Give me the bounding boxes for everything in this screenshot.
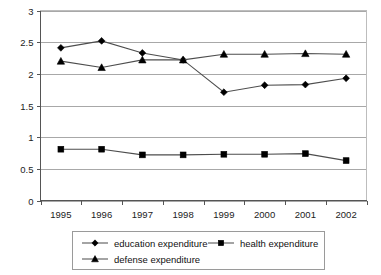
y-tick-label: 0.5 — [20, 164, 33, 175]
chart-legend: education expenditurehealth expenditured… — [73, 232, 325, 270]
y-tick-label: 2 — [28, 69, 33, 80]
data-point-marker — [58, 146, 64, 152]
data-point-marker — [343, 158, 349, 164]
x-tick-label: 1996 — [91, 209, 112, 220]
y-tick-label: 3 — [28, 6, 33, 17]
legend-label: health expenditure — [240, 238, 318, 249]
data-point-marker — [218, 240, 223, 245]
data-point-marker — [262, 151, 268, 157]
chart-container: 00.511.522.53 19951996199719981999200020… — [0, 0, 381, 275]
data-point-marker — [139, 152, 145, 158]
x-tick-label: 2000 — [254, 209, 275, 220]
x-tick-label: 1998 — [173, 209, 194, 220]
legend-label: defense expenditure — [114, 254, 200, 265]
x-tick-label: 2001 — [295, 209, 316, 220]
legend-label: education expenditure — [114, 238, 208, 249]
data-point-marker — [221, 151, 227, 157]
y-tick-label: 1.5 — [20, 101, 33, 112]
data-point-marker — [180, 152, 186, 158]
expenditure-line-chart: 00.511.522.53 19951996199719981999200020… — [0, 0, 381, 275]
x-tick-label: 2002 — [336, 209, 357, 220]
x-tick-label: 1999 — [213, 209, 234, 220]
x-tick-label: 1997 — [132, 209, 153, 220]
data-point-marker — [99, 146, 105, 152]
data-point-marker — [302, 151, 308, 157]
x-tick-label: 1995 — [50, 209, 71, 220]
y-tick-label: 0 — [28, 196, 33, 207]
y-tick-label: 1 — [28, 132, 33, 143]
y-tick-label: 2.5 — [20, 37, 33, 48]
